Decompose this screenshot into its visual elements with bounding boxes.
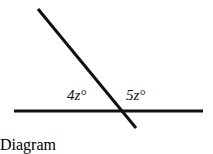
figure-canvas <box>0 0 213 136</box>
angle-label-left: 4z° <box>67 88 86 103</box>
angle-label-right: 5z° <box>126 88 145 103</box>
geometry-figure: 4z° 5z° <box>0 0 213 136</box>
